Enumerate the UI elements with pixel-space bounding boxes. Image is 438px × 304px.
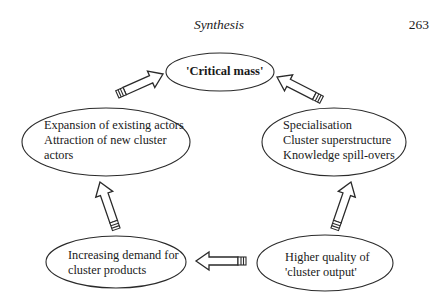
arrow-demand-to-expansion-icon <box>91 179 124 232</box>
arrow-expansion-to-critical-mass-icon <box>114 66 167 103</box>
node-quality-label: Higher quality of 'cluster output' <box>285 250 370 280</box>
node-expansion-label: Expansion of existing actors Attraction … <box>44 118 184 163</box>
node-specialisation-label: Specialisation Cluster superstructure Kn… <box>283 118 395 163</box>
arrow-specialisation-to-critical-mass-icon <box>273 69 326 108</box>
node-demand-label: Increasing demand for cluster products <box>68 248 179 278</box>
arrow-quality-to-specialisation-icon <box>326 179 359 232</box>
node-critical-mass-label: 'Critical mass' <box>186 64 263 79</box>
arrow-quality-to-demand-icon <box>196 252 246 270</box>
